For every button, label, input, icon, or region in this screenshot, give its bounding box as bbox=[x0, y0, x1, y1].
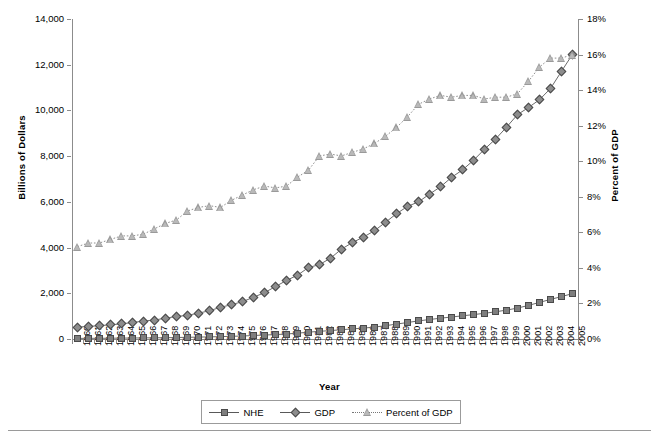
series-line-nhe bbox=[78, 294, 573, 339]
data-point-nhe bbox=[261, 332, 268, 339]
data-point-nhe bbox=[74, 335, 81, 342]
data-point-inner bbox=[492, 95, 498, 100]
data-point-inner bbox=[184, 209, 190, 214]
data-point-inner bbox=[85, 241, 91, 246]
legend-label-percent-of-gdp: Percent of GDP bbox=[386, 407, 453, 418]
data-point-inner bbox=[338, 154, 344, 159]
data-point-percent-of-gdp bbox=[227, 196, 235, 204]
data-point-nhe bbox=[173, 334, 180, 341]
data-point-percent-of-gdp bbox=[128, 232, 136, 240]
data-point-nhe bbox=[437, 315, 444, 322]
data-point-percent-of-gdp bbox=[216, 203, 224, 211]
data-point-percent-of-gdp bbox=[172, 216, 180, 224]
data-point-inner bbox=[294, 175, 300, 180]
data-point-percent-of-gdp bbox=[304, 166, 312, 174]
data-point-percent-of-gdp bbox=[315, 152, 323, 160]
data-point-percent-of-gdp bbox=[502, 93, 510, 101]
data-point-nhe bbox=[206, 333, 213, 340]
data-point-inner bbox=[470, 94, 476, 99]
data-point-nhe bbox=[514, 305, 521, 312]
data-point-inner bbox=[305, 168, 311, 173]
data-point-nhe bbox=[151, 334, 158, 341]
data-point-percent-of-gdp bbox=[414, 100, 422, 108]
data-point-inner bbox=[558, 56, 564, 61]
data-point-inner bbox=[195, 206, 201, 211]
data-point-inner bbox=[206, 204, 212, 209]
data-point-inner bbox=[74, 245, 80, 250]
data-point-nhe bbox=[96, 335, 103, 342]
legend-key-triangle-icon bbox=[352, 406, 382, 418]
data-point-inner bbox=[514, 92, 520, 97]
data-point-nhe bbox=[393, 321, 400, 328]
legend-key-diamond-icon bbox=[280, 406, 310, 418]
data-point-percent-of-gdp bbox=[238, 191, 246, 199]
data-point-nhe bbox=[415, 317, 422, 324]
data-point-nhe bbox=[140, 334, 147, 341]
data-point-nhe bbox=[85, 335, 92, 342]
data-point-inner bbox=[382, 134, 388, 139]
data-point-inner bbox=[272, 186, 278, 191]
data-point-inner bbox=[448, 95, 454, 100]
data-point-inner bbox=[481, 97, 487, 102]
data-point-nhe bbox=[228, 333, 235, 340]
data-point-percent-of-gdp bbox=[326, 150, 334, 158]
data-point-inner bbox=[371, 142, 377, 147]
data-point-inner bbox=[459, 94, 465, 99]
legend-label-nhe: NHE bbox=[243, 407, 263, 418]
data-point-percent-of-gdp bbox=[480, 95, 488, 103]
data-point-inner bbox=[404, 115, 410, 120]
data-point-percent-of-gdp bbox=[249, 186, 257, 194]
legend-key-square-icon bbox=[209, 406, 239, 418]
data-point-nhe bbox=[272, 331, 279, 338]
data-point-percent-of-gdp bbox=[73, 243, 81, 251]
data-point-nhe bbox=[294, 330, 301, 337]
data-point-nhe bbox=[349, 325, 356, 332]
data-point-percent-of-gdp bbox=[293, 173, 301, 181]
data-point-percent-of-gdp bbox=[491, 93, 499, 101]
legend-item-percent-of-gdp: Percent of GDP bbox=[352, 406, 453, 418]
data-point-percent-of-gdp bbox=[205, 202, 213, 210]
data-point-percent-of-gdp bbox=[194, 203, 202, 211]
data-point-nhe bbox=[481, 310, 488, 317]
data-point-inner bbox=[250, 188, 256, 193]
data-point-percent-of-gdp bbox=[392, 123, 400, 131]
data-point-percent-of-gdp bbox=[348, 148, 356, 156]
data-point-inner bbox=[228, 198, 234, 203]
data-point-nhe bbox=[283, 331, 290, 338]
data-point-nhe bbox=[184, 334, 191, 341]
data-point-inner bbox=[316, 154, 322, 159]
data-point-inner bbox=[349, 150, 355, 155]
data-point-inner bbox=[239, 193, 245, 198]
data-point-percent-of-gdp bbox=[513, 90, 521, 98]
data-point-percent-of-gdp bbox=[150, 225, 158, 233]
legend-item-nhe: NHE bbox=[209, 406, 263, 418]
data-point-inner bbox=[525, 79, 531, 84]
data-point-nhe bbox=[426, 316, 433, 323]
data-point-nhe bbox=[536, 299, 543, 306]
data-point-nhe bbox=[459, 312, 466, 319]
data-point-nhe bbox=[195, 334, 202, 341]
chart-figure: Billions of Dollars Percent of GDP Year … bbox=[0, 0, 659, 441]
data-point-nhe bbox=[217, 333, 224, 340]
data-point-inner bbox=[437, 94, 443, 99]
data-point-inner bbox=[426, 97, 432, 102]
data-point-percent-of-gdp bbox=[271, 184, 279, 192]
data-point-inner bbox=[283, 184, 289, 189]
data-point-percent-of-gdp bbox=[403, 113, 411, 121]
data-point-inner bbox=[327, 152, 333, 157]
data-point-percent-of-gdp bbox=[183, 207, 191, 215]
data-point-percent-of-gdp bbox=[447, 93, 455, 101]
data-point-nhe bbox=[371, 324, 378, 331]
data-point-nhe bbox=[118, 335, 125, 342]
series-line-percent-of-gdp bbox=[78, 55, 573, 247]
data-point-nhe bbox=[316, 328, 323, 335]
data-point-nhe bbox=[360, 325, 367, 332]
data-point-percent-of-gdp bbox=[425, 95, 433, 103]
data-point-nhe bbox=[547, 296, 554, 303]
data-point-percent-of-gdp bbox=[469, 91, 477, 99]
data-point-percent-of-gdp bbox=[370, 139, 378, 147]
data-point-percent-of-gdp bbox=[568, 51, 576, 59]
data-point-inner bbox=[415, 102, 421, 107]
data-point-inner bbox=[129, 234, 135, 239]
data-point-nhe bbox=[239, 333, 246, 340]
